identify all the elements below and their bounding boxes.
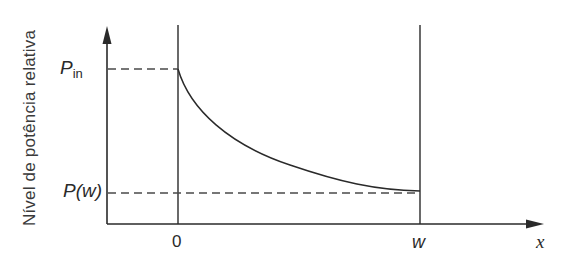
x-tick-w: w: [412, 232, 425, 253]
x-axis-arrow-icon: [526, 220, 544, 229]
p-in-subscript: in: [73, 66, 83, 81]
p-in-label: Pin: [60, 57, 83, 81]
p-w-label: P(w): [63, 180, 102, 202]
y-axis-arrow-icon: [103, 26, 112, 44]
y-axis-label: Nível de potência relativa: [20, 30, 40, 226]
diagram-graphics: [0, 0, 562, 265]
x-tick-zero: 0: [172, 232, 181, 252]
power-decay-diagram: Nível de potência relativa Pin P(w) 0 w …: [0, 0, 562, 265]
p-in-symbol: P: [60, 57, 73, 78]
x-axis-label: x: [536, 231, 544, 253]
decay-curve: [178, 69, 420, 191]
